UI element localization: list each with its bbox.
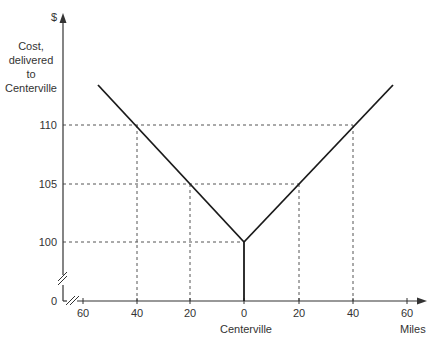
x-tick-right-60: 60 [392,307,422,320]
x-tick-left-20: 20 [175,307,205,320]
y-title-line: to [2,67,60,81]
y-unit-label: $ [51,11,57,24]
y-title-line: Centerville [2,81,60,95]
y-tick-0: 0 [27,295,57,308]
right-cost-line [244,85,393,242]
y-tick-110: 110 [27,119,57,132]
x-tick-right-40: 40 [338,307,368,320]
axis-break-marks [58,272,79,305]
y-axis-arrow-icon [60,13,67,23]
y-title-line: delivered [2,53,60,67]
cost-curve [98,85,393,301]
left-cost-line [98,85,244,242]
x-center-label: Centerville [220,323,272,336]
y-tick-105: 105 [27,178,57,191]
y-title-line: Cost, [2,39,60,53]
x-tick-right-20: 20 [284,307,314,320]
reference-gridlines [63,125,353,301]
x-axis-arrow-icon [417,298,427,305]
x-axis-unit-label: Miles [400,323,426,336]
y-tick-100: 100 [27,236,57,249]
chart-canvas [0,0,436,347]
x-tick-center-0: 0 [229,307,259,320]
x-tick-left-60: 60 [68,307,98,320]
axes [63,22,418,301]
x-tick-left-40: 40 [122,307,152,320]
y-axis-title: Cost, delivered to Centerville [2,39,60,95]
